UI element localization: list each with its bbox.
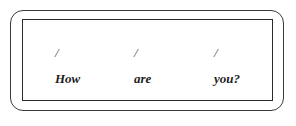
tone-mark-2: / [134, 46, 138, 59]
tone-mark-3: / [214, 46, 218, 59]
tone-mark-1: / [55, 46, 59, 59]
utterance-sentence: How are you? [22, 19, 23, 20]
utterance-annotation: / / / How are you? How are you? [22, 19, 273, 101]
word-1: How [55, 71, 80, 86]
word-2: are [134, 71, 151, 86]
word-3: you? [214, 71, 240, 86]
word-row: How are you? [22, 71, 273, 91]
tone-mark-row: / / / [22, 46, 273, 62]
